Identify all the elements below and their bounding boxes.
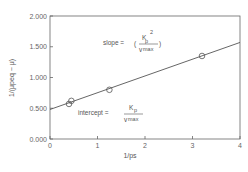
intercept-denominator-sub: max [128,116,139,122]
y-tick-label: 2.000 [29,13,47,20]
y-tick-label: 1.000 [29,74,47,81]
y-axis-title: 1/(μpeq − μ) [8,59,16,97]
x-tick-label: 1 [96,142,100,149]
x-tick-label: 2 [143,142,147,149]
slope-lparen: ( [134,40,137,48]
y-axis-ticks: 0.0000.5001.0001.5002.000 [29,13,53,143]
regression-line [50,42,240,109]
slope-annotation: slope = ( K p 2 v max ) [103,29,161,53]
y-tick-label: 1.500 [29,43,47,50]
x-tick-label: 4 [238,142,242,149]
chart: 0.0000.5001.0001.5002.000 01234 1/ps 1/(… [0,0,248,172]
y-tick-label: 0.500 [29,105,47,112]
x-axis-ticks: 01234 [48,136,242,149]
slope-denominator-sub: max [143,46,154,52]
slope-numerator-sub: p [145,38,148,44]
x-tick-label: 0 [48,142,52,149]
intercept-label: intercept = [78,109,109,117]
x-tick-label: 3 [191,142,195,149]
intercept-numerator-sub: p [134,107,137,113]
fit-line-path [50,42,240,109]
data-point-marker [107,87,113,93]
x-axis-title: 1/ps [123,152,137,160]
slope-rparen: ) [159,40,161,48]
y-tick-label: 0.000 [29,136,47,143]
intercept-annotation: intercept = K p v max [78,104,143,123]
slope-numerator-sup: 2 [150,29,153,35]
data-markers [66,53,205,107]
slope-label: slope = [103,39,124,47]
